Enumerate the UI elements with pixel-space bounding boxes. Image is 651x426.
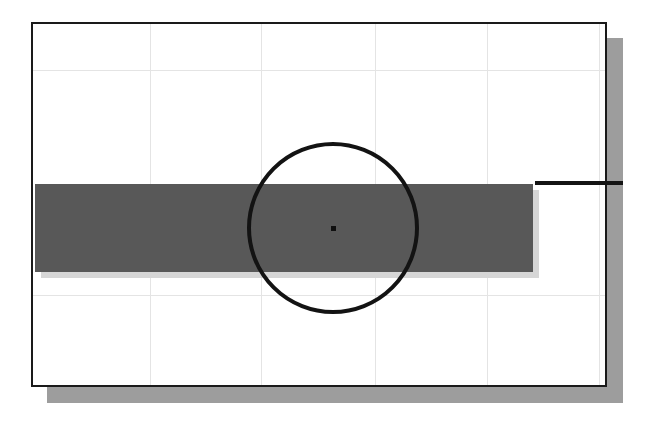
plot-area bbox=[33, 24, 605, 385]
center-point-marker bbox=[331, 226, 336, 231]
gridline-vertical-5 bbox=[599, 24, 600, 385]
gridline-horizontal-1 bbox=[33, 70, 605, 71]
plot-frame bbox=[31, 22, 607, 387]
figure-canvas bbox=[0, 0, 651, 426]
right-horizontal-rule bbox=[535, 181, 623, 185]
